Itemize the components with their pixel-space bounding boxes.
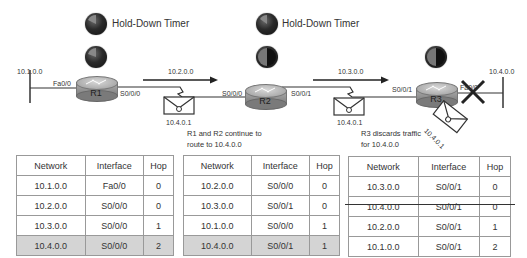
- r1-left-interface: Fa0/0: [53, 80, 71, 87]
- network-label-left-lan: 10.1.0.0: [17, 68, 42, 75]
- packet-label-2: 10.4.0.1: [337, 119, 362, 126]
- table-row: 10.2.0.0 S0/0/1 1: [349, 217, 511, 237]
- header-interface: Interface: [418, 157, 480, 177]
- packet-envelope-icon-1: [163, 96, 195, 116]
- header-interface: Interface: [85, 156, 144, 176]
- hold-down-timer-icon-r3: [425, 46, 447, 68]
- header-hop: Hop: [480, 157, 511, 177]
- table-row-highlighted: 10.4.0.0 S0/0/1 1: [184, 236, 340, 256]
- table-row-highlighted: 10.4.0.0 S0/0/0 2: [17, 236, 174, 256]
- r2-right-interface: S0/0/1: [291, 90, 311, 97]
- hold-down-timer-icon-r1-top: [85, 13, 107, 35]
- network-label-r1-r2: 10.2.0.0: [168, 68, 193, 75]
- note-r1-r2: R1 and R2 continue to route to 10.4.0.0: [187, 128, 262, 150]
- table-header-row: Network Interface Hop: [349, 157, 511, 177]
- network-label-right-lan: 10.4.0.0: [489, 68, 514, 75]
- router-name-r3: R3: [416, 94, 456, 104]
- r3-right-interface: Fa0/0: [460, 84, 478, 91]
- table-row-struck: 10.4.0.0 S0/0/1 0: [349, 197, 511, 217]
- network-label-r2-r3: 10.3.0.0: [338, 68, 363, 75]
- router-arrows-icon: [84, 78, 108, 86]
- routing-table-r3: Network Interface Hop 10.3.0.0 S0/0/1 0 …: [348, 156, 511, 257]
- r1-right-interface: S0/0/0: [120, 90, 140, 97]
- table-row: 10.2.0.0 S0/0/0 0: [17, 196, 174, 216]
- routing-table-r1: Network Interface Hop 10.1.0.0 Fa0/0 0 1…: [16, 155, 174, 256]
- routing-table-r2: Network Interface Hop 10.2.0.0 S0/0/0 0 …: [183, 155, 340, 256]
- table-row: 10.3.0.0 S0/0/1 0: [184, 196, 340, 216]
- hold-down-timer-icon-r1: [85, 46, 107, 68]
- packet-envelope-icon-2: [333, 97, 365, 117]
- router-r3: R3: [416, 82, 456, 106]
- packet-envelope-icon-3: [430, 100, 470, 134]
- hold-down-timer-icon-r2: [256, 46, 278, 68]
- table-row: 10.1.0.0 S0/0/1 2: [349, 237, 511, 257]
- router-name-r2: R2: [245, 96, 285, 106]
- r2-left-interface: S0/0/0: [222, 90, 242, 97]
- router-arrows-icon: [253, 86, 277, 94]
- table-row: 10.3.0.0 S0/0/1 0: [349, 177, 511, 197]
- strikethrough-line: [345, 204, 515, 205]
- note-r3: R3 discards traffic for 10.4.0.0: [361, 128, 421, 150]
- hold-down-timer-label-2: Hold-Down Timer: [282, 18, 359, 29]
- hold-down-timer-label-1: Hold-Down Timer: [112, 18, 189, 29]
- hold-down-timer-icon-r2-top: [256, 13, 278, 35]
- header-hop: Hop: [310, 156, 340, 176]
- header-network: Network: [349, 157, 419, 177]
- router-r1: R1: [76, 76, 116, 100]
- table-header-row: Network Interface Hop: [17, 156, 174, 176]
- table-row: 10.1.0.0 Fa0/0 0: [17, 176, 174, 196]
- router-arrows-icon: [424, 84, 448, 92]
- table-row: 10.1.0.0 S0/0/0 1: [184, 216, 340, 236]
- header-network: Network: [17, 156, 86, 176]
- r3-left-interface: S0/0/1: [392, 86, 412, 93]
- table-row: 10.3.0.0 S0/0/0 1: [17, 216, 174, 236]
- header-hop: Hop: [144, 156, 174, 176]
- header-interface: Interface: [251, 156, 310, 176]
- header-network: Network: [184, 156, 252, 176]
- router-name-r1: R1: [76, 88, 116, 98]
- packet-label-1: 10.4.0.1: [166, 119, 191, 126]
- table-header-row: Network Interface Hop: [184, 156, 340, 176]
- router-r2: R2: [245, 84, 285, 108]
- table-row: 10.2.0.0 S0/0/0 0: [184, 176, 340, 196]
